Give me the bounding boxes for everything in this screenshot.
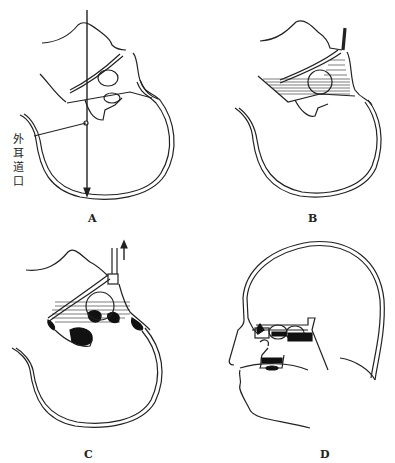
panel-c: C [0, 230, 200, 463]
skull-hatched-sinus-drawing [200, 0, 395, 230]
panel-label: A [88, 212, 97, 225]
panel-d: D [200, 230, 395, 463]
annotation-char: 耳 [13, 147, 25, 161]
annotation-external-auditory-meatus: 外 耳 道 口 [13, 133, 25, 189]
panel-a: 外 耳 道 口 A [0, 0, 200, 230]
skull-filled-sinus-drawing [0, 230, 200, 463]
panel-b: B [200, 0, 395, 230]
annotation-char: 口 [13, 175, 25, 189]
panel-label: D [320, 448, 330, 461]
annotation-char: 外 [13, 133, 25, 147]
panel-label: C [84, 448, 93, 461]
annotation-char: 道 [13, 161, 25, 175]
skull-lateral-vertical-line-drawing [0, 0, 200, 230]
panel-label: B [308, 212, 317, 225]
head-profile-upright-drawing [200, 230, 395, 463]
